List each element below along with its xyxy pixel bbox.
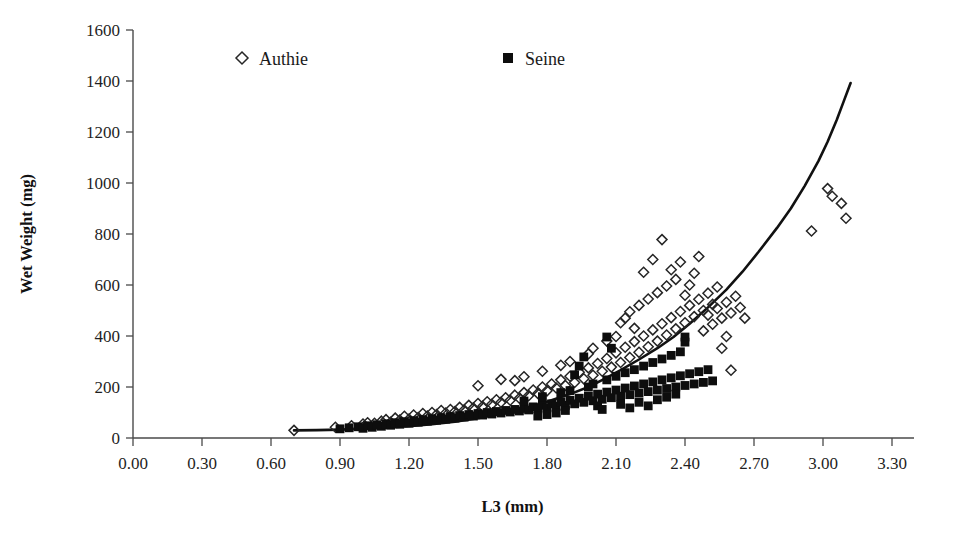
data-point-seine [644,387,653,396]
y-tick-label: 1400 [86,72,120,91]
x-tick-label: 3.30 [877,454,907,473]
chart-container: 020040060080010001200140016000.000.300.6… [0,0,958,546]
chart-legend: AuthieSeine [236,49,565,69]
data-point-seine [648,358,657,367]
data-point-seine [676,347,685,356]
data-point-authie [537,366,547,376]
data-point-seine [681,338,690,347]
data-point-authie [652,288,662,298]
data-point-authie [680,290,690,300]
y-tick-label: 600 [95,276,121,295]
data-point-authie [620,342,630,352]
y-tick-label: 0 [112,429,121,448]
data-point-authie [666,313,676,323]
data-point-seine [336,424,345,433]
legend-item-authie: Authie [236,49,308,69]
data-point-seine [625,404,634,413]
data-point-authie [694,251,704,261]
data-point-authie [657,235,667,245]
y-tick-label: 1600 [86,21,120,40]
axes-layer [133,30,914,438]
data-point-seine [671,390,680,399]
data-point-authie [639,267,649,277]
data-point-seine [708,376,717,385]
data-point-authie [611,332,621,342]
data-point-seine [607,344,616,353]
data-point-seine [552,409,561,418]
data-point-authie [685,300,695,310]
data-point-seine [575,362,584,371]
data-point-authie [496,374,506,384]
data-point-seine [579,353,588,362]
data-point-seine [345,423,354,432]
data-point-seine [543,410,552,419]
y-axis-title: Wet Weight (mg) [17,174,36,294]
data-point-authie [629,337,639,347]
x-axis-title: L3 (mm) [482,497,544,516]
data-point-authie [606,362,616,372]
scatter-plot: 020040060080010001200140016000.000.300.6… [0,0,958,546]
y-tick-label: 200 [95,378,121,397]
data-point-authie [721,332,731,342]
data-point-authie [588,343,598,353]
x-tick-label: 1.80 [532,454,562,473]
data-point-seine [648,378,657,387]
data-point-authie [639,331,649,341]
data-point-authie [634,300,644,310]
x-tick-label: 2.70 [739,454,769,473]
data-point-seine [538,392,547,401]
data-point-authie [685,280,695,290]
data-point-authie [721,297,731,307]
data-point-authie [689,268,699,278]
data-point-seine [625,390,634,399]
data-point-seine [635,398,644,407]
data-point-authie [625,352,635,362]
legend-marker-filled-square-icon [503,53,513,63]
data-point-authie [675,307,685,317]
data-point-authie [662,281,672,291]
data-point-authie [616,358,626,368]
data-point-authie [841,213,851,223]
data-point-authie [731,291,741,301]
data-point-authie [473,381,483,391]
data-point-seine [694,367,703,376]
data-point-authie [717,343,727,353]
data-point-seine [566,386,575,395]
data-point-authie [648,325,658,335]
data-point-seine [520,397,529,406]
data-point-seine [556,388,565,397]
data-point-seine [699,378,708,387]
data-point-seine [658,355,667,364]
data-point-authie [836,198,846,208]
data-point-seine [630,365,639,374]
data-point-seine [621,368,630,377]
data-point-seine [653,386,662,395]
data-point-authie [708,319,718,329]
legend-label: Authie [259,49,308,69]
data-point-seine [602,333,611,342]
y-tick-label: 1000 [86,174,120,193]
data-point-seine [602,375,611,384]
data-point-seine [533,412,542,421]
data-point-seine [681,381,690,390]
data-point-authie [717,313,727,323]
legend-marker-open-diamond-icon [236,52,248,64]
data-point-seine [667,373,676,382]
data-point-seine [598,405,607,414]
data-series-layer [289,184,851,436]
data-point-seine [704,365,713,374]
data-point-authie [698,326,708,336]
data-point-seine [589,380,598,389]
x-tick-label: 1.20 [394,454,424,473]
x-tick-label: 0.00 [118,454,148,473]
data-point-seine [644,401,653,410]
data-point-authie [675,257,685,267]
data-point-authie [657,319,667,329]
data-point-seine [635,389,644,398]
data-point-authie [740,313,750,323]
data-point-authie [735,302,745,312]
data-point-seine [653,395,662,404]
data-point-authie [726,365,736,375]
data-point-seine [658,375,667,384]
data-point-seine [607,393,616,402]
